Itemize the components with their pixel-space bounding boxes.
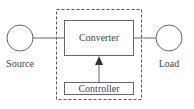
controller-label: Controller [78,83,120,94]
system-block-diagram: Source Converter Load Controller [0,0,194,109]
converter-label: Converter [79,32,120,43]
arrowhead-icon [95,56,103,65]
load-node [156,25,182,51]
source-label: Source [6,58,34,69]
load-label: Load [159,58,180,69]
source-node [7,25,33,51]
